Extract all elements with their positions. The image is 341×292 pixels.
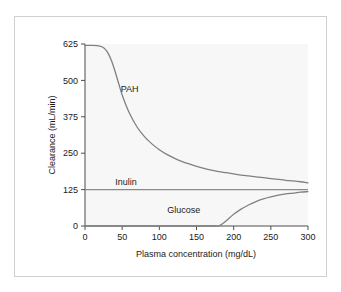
x-tick-label: 50 (117, 232, 127, 242)
y-axis: 0125250375500625 (63, 39, 85, 231)
series-label-inulin: Inulin (115, 177, 137, 187)
series-label-pah: PAH (121, 84, 139, 94)
x-tick-label: 150 (189, 232, 204, 242)
x-axis: 050100150200250300 (82, 226, 315, 242)
y-tick-label: 375 (63, 112, 78, 122)
x-tick-group: 050100150200250300 (82, 226, 315, 242)
y-tick-label: 125 (63, 185, 78, 195)
x-axis-title: Plasma concentration (mg/dL) (136, 249, 256, 259)
y-tick-label: 625 (63, 39, 78, 49)
y-tick-label: 250 (63, 148, 78, 158)
plot-background (85, 44, 308, 226)
y-axis-title: Clearance (mL/min) (47, 95, 57, 174)
x-tick-label: 250 (263, 232, 278, 242)
x-tick-label: 300 (300, 232, 315, 242)
series-label-glucose: Glucose (167, 205, 200, 215)
x-tick-label: 100 (152, 232, 167, 242)
y-tick-group: 0125250375500625 (63, 39, 85, 231)
x-tick-label: 200 (226, 232, 241, 242)
y-tick-label: 500 (63, 76, 78, 86)
x-tick-label: 0 (82, 232, 87, 242)
figure-root: 0125250375500625 050100150200250300 PAHI… (0, 0, 341, 292)
y-tick-label: 0 (73, 221, 78, 231)
clearance-chart: 0125250375500625 050100150200250300 PAHI… (0, 0, 341, 292)
